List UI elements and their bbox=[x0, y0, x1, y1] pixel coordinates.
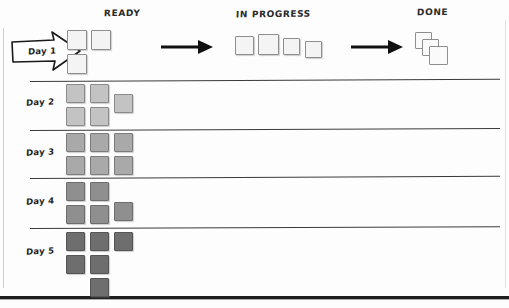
card-in-progress-1[interactable] bbox=[235, 36, 254, 55]
card-day3-3[interactable] bbox=[114, 133, 133, 152]
card-day3-2[interactable] bbox=[90, 133, 109, 152]
card-day5-2[interactable] bbox=[90, 232, 109, 251]
card-day2-2[interactable] bbox=[90, 84, 109, 103]
column-header-ready: READY bbox=[104, 8, 141, 18]
card-day5-1[interactable] bbox=[66, 232, 85, 251]
kanban-flow-diagram: READY IN PROGRESS DONE Day 1 Day 2 Day 3… bbox=[0, 0, 509, 308]
row-separator-3 bbox=[30, 176, 500, 179]
card-day2-4[interactable] bbox=[66, 107, 85, 126]
flow-arrow-in-progress-to-done bbox=[350, 38, 404, 56]
card-day1-1[interactable] bbox=[67, 30, 87, 50]
row-separator-4 bbox=[30, 226, 500, 229]
card-day4-2[interactable] bbox=[90, 182, 109, 201]
card-day4-1[interactable] bbox=[66, 182, 85, 201]
card-day5-5[interactable] bbox=[90, 255, 109, 274]
card-day5-3[interactable] bbox=[114, 232, 133, 251]
card-done-3[interactable] bbox=[429, 46, 448, 65]
day-4-label: Day 4 bbox=[26, 195, 55, 206]
column-header-done: DONE bbox=[417, 7, 449, 17]
frame-left-edge bbox=[3, 28, 4, 288]
row-separator-2 bbox=[30, 128, 500, 131]
card-day2-3[interactable] bbox=[114, 94, 133, 113]
card-day3-1[interactable] bbox=[66, 133, 85, 152]
card-day4-5[interactable] bbox=[114, 202, 133, 221]
day-2-label: Day 2 bbox=[26, 96, 55, 107]
card-in-progress-4[interactable] bbox=[305, 41, 322, 58]
day-3-label: Day 3 bbox=[26, 146, 55, 157]
card-day3-6[interactable] bbox=[114, 156, 133, 175]
frame-bottom-edge-shadow bbox=[0, 299, 509, 300]
row-separator-1 bbox=[30, 79, 500, 82]
card-day3-5[interactable] bbox=[90, 156, 109, 175]
card-day4-3[interactable] bbox=[66, 205, 85, 224]
done-card-stack bbox=[415, 32, 455, 70]
flow-arrow-ready-to-in-progress bbox=[160, 38, 214, 56]
column-header-in-progress: IN PROGRESS bbox=[236, 9, 311, 20]
day-1-label: Day 1 bbox=[28, 45, 57, 56]
card-day1-3[interactable] bbox=[67, 54, 87, 74]
card-day4-4[interactable] bbox=[90, 205, 109, 224]
card-day5-6[interactable] bbox=[90, 278, 109, 297]
card-day2-5[interactable] bbox=[90, 107, 109, 126]
card-day1-2[interactable] bbox=[91, 30, 111, 50]
day-5-label: Day 5 bbox=[26, 245, 55, 256]
card-day2-1[interactable] bbox=[66, 84, 85, 103]
card-in-progress-2[interactable] bbox=[258, 34, 279, 55]
frame-right-edge bbox=[505, 20, 506, 288]
card-day5-4[interactable] bbox=[66, 255, 85, 274]
card-day3-4[interactable] bbox=[66, 156, 85, 175]
card-in-progress-3[interactable] bbox=[283, 38, 300, 55]
